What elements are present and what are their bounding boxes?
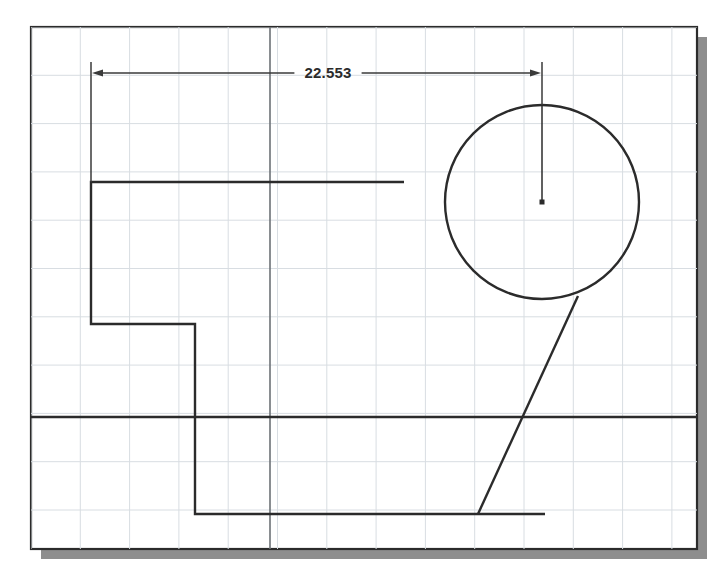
- dimension-value-text[interactable]: 22.553: [304, 64, 351, 81]
- sketch-canvas[interactable]: 22.553: [0, 0, 721, 581]
- cad-sketch-viewport: 22.553: [0, 0, 721, 581]
- center-point-marker[interactable]: [540, 200, 545, 205]
- sketch-sheet[interactable]: [31, 27, 697, 549]
